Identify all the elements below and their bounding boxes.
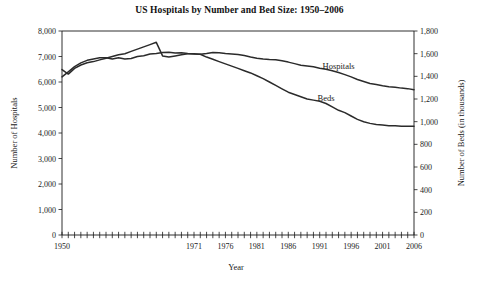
y-axis-right-tick-label: 800 (420, 140, 432, 149)
x-axis-tick-label: 1950 (54, 242, 70, 251)
x-axis-tick-label: 1996 (343, 242, 359, 251)
series-line-hospitals (62, 52, 414, 89)
y-axis-left-tick-label: 2,000 (38, 180, 56, 189)
y-axis-right-tick-label: 1,200 (420, 95, 438, 104)
y-axis-left-tick-label: 0 (52, 231, 56, 240)
chart-plot-area: 01,0002,0003,0004,0005,0006,0007,0008,00… (0, 0, 479, 286)
x-axis-tick-label: 2001 (375, 242, 391, 251)
y-axis-left-tick-label: 3,000 (38, 155, 56, 164)
y-axis-right-tick-label: 400 (420, 186, 432, 195)
y-axis-left-tick-label: 4,000 (38, 129, 56, 138)
y-axis-right-tick-label: 1,600 (420, 50, 438, 59)
y-axis-right-tick-label: 1,400 (420, 72, 438, 81)
x-axis-tick-label: 2006 (406, 242, 422, 251)
x-axis-tick-label: 1971 (186, 242, 202, 251)
y-axis-left-tick-label: 1,000 (38, 206, 56, 215)
y-axis-left-tick-label: 5,000 (38, 104, 56, 113)
y-axis-right-title: Number of Beds (in thousands) (456, 79, 466, 186)
chart-figure: US Hospitals by Number and Bed Size: 195… (0, 0, 479, 286)
y-axis-left-tick-label: 7,000 (38, 53, 56, 62)
y-axis-right-tick-label: 200 (420, 208, 432, 217)
series-label-beds: Beds (318, 93, 335, 103)
y-axis-right-tick-label: 600 (420, 163, 432, 172)
x-axis-title: Year (228, 262, 244, 272)
y-axis-left-tick-label: 6,000 (38, 78, 56, 87)
x-axis-tick-label: 1981 (249, 242, 265, 251)
y-axis-right-tick-label: 1,000 (420, 118, 438, 127)
x-axis-tick-label: 1991 (312, 242, 328, 251)
series-label-hospitals: Hospitals (323, 61, 355, 71)
y-axis-left-tick-label: 8,000 (38, 27, 56, 36)
y-axis-right-tick-label: 1,800 (420, 27, 438, 36)
x-axis-tick-label: 1976 (217, 242, 233, 251)
x-axis-tick-label: 1986 (280, 242, 296, 251)
y-axis-right-tick-label: 0 (420, 231, 424, 240)
y-axis-left-title: Number of Hospitals (9, 97, 19, 168)
